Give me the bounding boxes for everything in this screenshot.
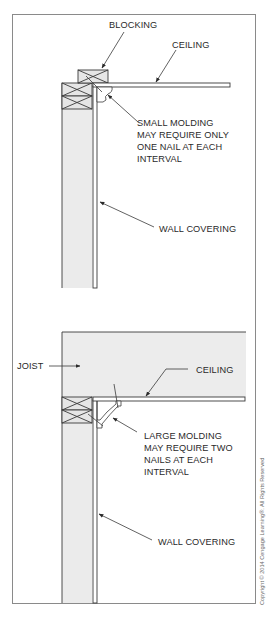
top-detail: BLOCKING CEILING SMALL MOLDING MAY REQUI… [62, 20, 236, 288]
large-molding-note-line-3: NAILS AT EACH [144, 455, 213, 465]
blocking-leader [102, 32, 124, 68]
molding-diagram: BLOCKING CEILING SMALL MOLDING MAY REQUI… [0, 0, 268, 618]
blocking-label: BLOCKING [109, 20, 157, 30]
top-wall-covering-label: WALL COVERING [159, 224, 236, 234]
bottom-ceiling-board [93, 397, 245, 401]
large-molding-leader [113, 418, 137, 432]
small-molding-note-line-3: ONE NAIL AT EACH [137, 142, 222, 152]
top-ceiling-board [93, 83, 230, 87]
bottom-detail: JOIST CEILING LARGE MOLDING MAY REQUIRE … [17, 332, 246, 603]
bottom-wall-covering [93, 400, 97, 603]
small-molding-note-line-2: MAY REQUIRE ONLY [137, 130, 229, 140]
bottom-wall-plates [62, 397, 92, 423]
copyright-notice: Copyright © 2014 Cengage Learning®. All … [259, 458, 265, 605]
top-wall-stud [62, 83, 92, 288]
bottom-wall-covering-label: WALL COVERING [158, 537, 235, 547]
bottom-wall-covering-leader [99, 514, 152, 540]
large-molding-note-line-4: INTERVAL [144, 467, 189, 477]
top-wall-plates [62, 83, 92, 109]
blocking [78, 70, 108, 83]
small-molding-note-line-4: INTERVAL [137, 154, 182, 164]
top-wall-covering-leader [100, 202, 154, 227]
bottom-wall-stud [62, 397, 92, 603]
top-ceiling-leader [156, 50, 176, 82]
large-molding-note-line-1: LARGE MOLDING [144, 431, 222, 441]
figure-frame [13, 15, 256, 604]
bottom-ceiling-label: CEILING [196, 365, 233, 375]
joist-label: JOIST [17, 361, 44, 371]
small-molding-note-line-1: SMALL MOLDING [137, 118, 214, 128]
top-ceiling-label: CEILING [172, 40, 209, 50]
small-molding-leader [108, 95, 138, 122]
large-molding-note-line-2: MAY REQUIRE TWO [144, 443, 233, 453]
top-wall-covering [93, 86, 97, 288]
